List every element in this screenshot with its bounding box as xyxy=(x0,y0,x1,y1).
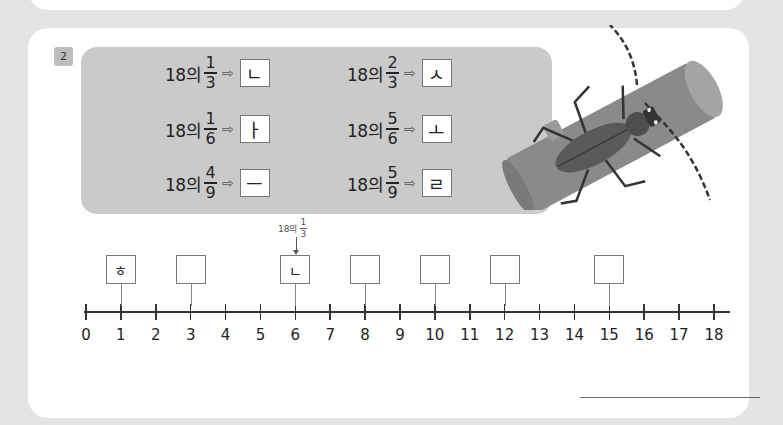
box-stem xyxy=(295,284,296,306)
cipher-letter-box: ㅡ xyxy=(240,169,270,197)
number-line-tick xyxy=(539,304,541,320)
cipher-row: 18의 59 ⇨ ㄹ xyxy=(347,166,452,200)
number-line-tick xyxy=(643,304,645,320)
fraction: 56 xyxy=(386,111,399,147)
box-stem xyxy=(435,284,436,306)
fraction: 16 xyxy=(204,111,217,147)
cipher-letter-box: ㅏ xyxy=(240,115,270,143)
letter-answer-box[interactable]: ㄴ xyxy=(280,255,310,284)
fraction: 59 xyxy=(386,165,399,201)
number-line-tick xyxy=(609,304,611,320)
callout-label: 18의 13 xyxy=(278,218,307,239)
arrow-icon: ⇨ xyxy=(404,121,416,137)
number-line-label: 15 xyxy=(594,326,624,344)
letter-answer-box[interactable] xyxy=(490,255,520,284)
number-line-tick xyxy=(190,304,192,320)
number-line-tick xyxy=(329,304,331,320)
number-line-axis xyxy=(84,311,730,313)
arrow-icon: ⇨ xyxy=(404,175,416,191)
cipher-letter-box: ㅗ xyxy=(422,115,452,143)
number-line-tick xyxy=(399,304,401,320)
previous-problem-card xyxy=(28,0,745,10)
number-line-label: 13 xyxy=(525,326,555,344)
number-line-label: 0 xyxy=(71,326,101,344)
number-line-tick xyxy=(225,304,227,320)
cipher-row: 18의 23 ⇨ ㅅ xyxy=(347,56,452,90)
number-line-label: 8 xyxy=(350,326,380,344)
number-line-tick xyxy=(260,304,262,320)
number-line-label: 17 xyxy=(664,326,694,344)
number-line-label: 7 xyxy=(315,326,345,344)
arrow-icon: ⇨ xyxy=(222,175,234,191)
cipher-letter-box: ㄹ xyxy=(422,169,452,197)
whole-number: 18의 xyxy=(347,61,383,86)
box-stem xyxy=(365,284,366,306)
number-line-label: 2 xyxy=(141,326,171,344)
number-line-tick xyxy=(120,304,122,320)
problem-number-badge: 2 xyxy=(54,47,73,66)
number-line-label: 16 xyxy=(629,326,659,344)
number-line-label: 5 xyxy=(245,326,275,344)
cipher-row: 18의 49 ⇨ ㅡ xyxy=(165,166,270,200)
cipher-letter-box: ㄴ xyxy=(240,59,270,87)
number-line-label: 11 xyxy=(455,326,485,344)
arrow-icon: ⇨ xyxy=(222,65,234,81)
cipher-row: 18의 16 ⇨ ㅏ xyxy=(165,112,270,146)
number-line-tick xyxy=(85,304,87,320)
number-line-tick xyxy=(364,304,366,320)
letter-answer-box[interactable] xyxy=(420,255,450,284)
arrow-icon: ⇨ xyxy=(404,65,416,81)
answer-blank[interactable] xyxy=(580,397,760,398)
number-line-label: 18 xyxy=(699,326,729,344)
number-line-label: 4 xyxy=(211,326,241,344)
letter-answer-box[interactable] xyxy=(176,255,206,284)
cipher-letter-box: ㅅ xyxy=(422,59,452,87)
number-line-tick xyxy=(678,304,680,320)
number-line-label: 12 xyxy=(490,326,520,344)
box-stem xyxy=(609,284,610,306)
number-line-label: 6 xyxy=(280,326,310,344)
whole-number: 18의 xyxy=(165,117,201,142)
letter-answer-box[interactable]: ㅎ xyxy=(106,255,136,284)
arrow-icon: ⇨ xyxy=(222,121,234,137)
number-line-tick xyxy=(713,304,715,320)
beetle-on-log-icon xyxy=(495,25,735,210)
box-stem xyxy=(191,284,192,306)
number-line-tick xyxy=(469,304,471,320)
number-line-label: 14 xyxy=(559,326,589,344)
fraction: 23 xyxy=(386,55,399,91)
number-line-tick xyxy=(434,304,436,320)
number-line-label: 3 xyxy=(176,326,206,344)
box-stem xyxy=(121,284,122,306)
fraction: 13 xyxy=(204,55,217,91)
number-line-tick xyxy=(574,304,576,320)
letter-answer-box[interactable] xyxy=(350,255,380,284)
whole-number: 18의 xyxy=(165,61,201,86)
number-line-tick xyxy=(295,304,297,320)
letter-answer-box[interactable] xyxy=(594,255,624,284)
number-line-label: 9 xyxy=(385,326,415,344)
number-line-label: 1 xyxy=(106,326,136,344)
number-line-label: 10 xyxy=(420,326,450,344)
cipher-row: 18의 13 ⇨ ㄴ xyxy=(165,56,270,90)
number-line-tick xyxy=(504,304,506,320)
whole-number: 18의 xyxy=(347,117,383,142)
fraction-cipher-panel xyxy=(81,47,552,214)
box-stem xyxy=(505,284,506,306)
fraction: 49 xyxy=(204,165,217,201)
cipher-row: 18의 56 ⇨ ㅗ xyxy=(347,112,452,146)
whole-number: 18의 xyxy=(165,171,201,196)
whole-number: 18의 xyxy=(347,171,383,196)
number-line-tick xyxy=(155,304,157,320)
